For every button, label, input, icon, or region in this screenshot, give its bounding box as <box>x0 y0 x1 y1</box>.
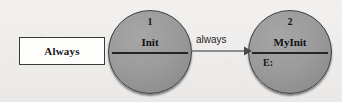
state-number: 1 <box>109 17 191 27</box>
transition-label: always <box>196 35 227 45</box>
state-node-myinit[interactable]: 2 MyInit E: <box>248 10 332 94</box>
state-divider <box>252 52 328 54</box>
diagram-canvas: Always 1 Init 2 MyInit E: always <box>0 0 342 102</box>
state-name: MyInit <box>249 37 331 48</box>
state-number: 2 <box>249 17 331 27</box>
always-box[interactable]: Always <box>19 37 105 65</box>
state-node-init[interactable]: 1 Init <box>108 10 192 94</box>
state-compartment: E: <box>263 58 273 68</box>
state-divider <box>112 52 188 54</box>
state-name: Init <box>109 37 191 48</box>
always-box-label: Always <box>44 46 79 57</box>
